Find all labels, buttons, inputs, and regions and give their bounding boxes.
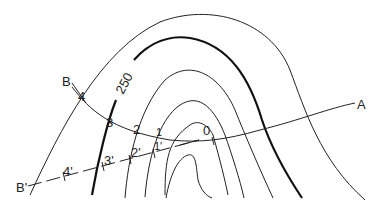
- label-2: 2: [133, 122, 140, 137]
- label-3-prime: 3': [104, 153, 114, 168]
- label-1-prime: 1': [154, 140, 162, 152]
- contour-diagram: B 4 3 2 1 0 A B' 4' 3' 2' 1' 250: [0, 0, 387, 212]
- label-0: 0: [203, 123, 210, 138]
- label-1: 1: [156, 126, 162, 138]
- label-b-prime: B': [16, 180, 27, 195]
- contour-label-250: 250: [112, 70, 135, 96]
- label-4-prime: 4': [63, 164, 73, 179]
- contour-line-inner-3: [165, 123, 228, 195]
- label-a: A: [357, 97, 366, 112]
- label-3: 3: [106, 115, 113, 130]
- label-2-prime: 2': [131, 145, 141, 160]
- contour-line-250-upper: [134, 37, 302, 198]
- label-4: 4: [78, 89, 85, 104]
- contour-line-innermost: [166, 155, 212, 198]
- label-b: B: [62, 74, 71, 89]
